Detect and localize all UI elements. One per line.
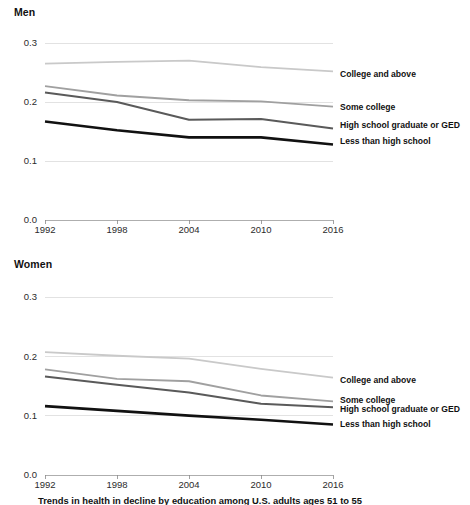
series-label: Less than high school	[340, 419, 431, 429]
series-line	[45, 61, 333, 72]
x-tick-label: 1998	[106, 479, 127, 490]
y-tick-label: 0.1	[24, 410, 37, 421]
y-tick-label: 0.1	[24, 155, 37, 166]
y-tick-label: 0.2	[24, 96, 37, 107]
x-tick-label: 2010	[250, 224, 271, 235]
series-label: High school graduate or GED	[340, 404, 460, 414]
y-tick-label: 0.3	[24, 37, 37, 48]
x-tick-label: 2016	[322, 224, 343, 235]
series-line	[45, 121, 333, 144]
x-tick-label: 2016	[322, 479, 343, 490]
series-line	[45, 369, 333, 401]
series-line	[45, 86, 333, 107]
series-label: College and above	[340, 375, 416, 385]
line-chart-women: 0.00.10.20.319921998200420102016College …	[0, 252, 470, 505]
y-tick-label: 0.2	[24, 351, 37, 362]
x-tick-label: 2010	[250, 479, 271, 490]
x-tick-label: 1998	[106, 224, 127, 235]
series-label: Some college	[340, 102, 396, 112]
y-tick-label: 0.3	[24, 291, 37, 302]
x-tick-label: 1992	[34, 224, 55, 235]
figure-trends-by-education: Men 0.00.10.20.319921998200420102016Coll…	[0, 0, 470, 505]
series-label: College and above	[340, 69, 416, 79]
x-tick-label: 2004	[178, 224, 199, 235]
line-chart-men: 0.00.10.20.319921998200420102016College …	[0, 0, 470, 252]
series-line	[45, 93, 333, 129]
chart-panel-women: Women 0.00.10.20.319921998200420102016Co…	[0, 252, 470, 505]
series-label: Less than high school	[340, 136, 431, 146]
figure-caption: Trends in health in decline by education…	[0, 494, 470, 505]
x-tick-label: 2004	[178, 479, 199, 490]
x-tick-label: 1992	[34, 479, 55, 490]
series-label: High school graduate or GED	[340, 120, 460, 130]
chart-panel-men: Men 0.00.10.20.319921998200420102016Coll…	[0, 0, 470, 252]
